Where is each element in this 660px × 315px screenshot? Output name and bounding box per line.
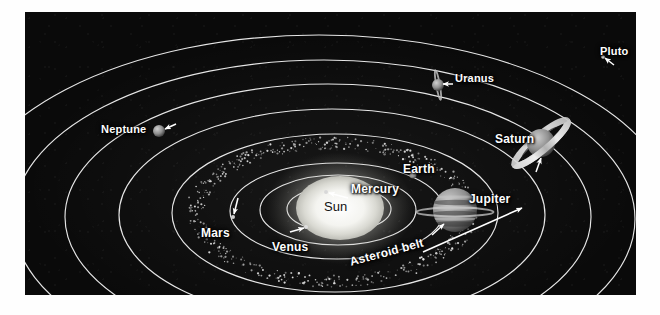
asteroid-dot [194,205,196,207]
asteroid-dot [214,183,216,185]
asteroid-dot [346,286,348,288]
asteroid-dot [282,147,283,148]
asteroid-dot [245,151,247,153]
asteroid-dot [459,232,460,233]
asteroid-dot [311,142,312,143]
asteroid-dot [313,138,314,139]
asteroid-dot [191,207,192,208]
asteroid-dot [339,285,341,287]
asteroid-dot [439,253,440,254]
asteroid-dot [216,174,218,176]
asteroid-dot [335,145,337,147]
asteroid-dot [440,249,441,250]
asteroid-dot [244,154,246,156]
asteroid-dot [449,243,451,245]
asteroid-dot [242,257,243,258]
asteroid-dot [235,164,236,165]
asteroid-dot [404,151,406,153]
asteroid-dot [372,276,373,277]
asteroid-dot [260,275,262,277]
asteroid-dot [403,267,405,269]
asteroid-dot [318,141,319,142]
asteroid-dot [188,197,190,199]
asteroid-dot [197,206,199,208]
asteroid-dot [390,148,392,150]
asteroid-dot [202,207,204,209]
asteroid-dot [365,149,366,150]
venus-label: Venus [272,240,308,254]
asteroid-dot [427,255,429,257]
asteroid-dot [364,274,365,275]
asteroid-dot [282,142,283,143]
asteroid-dot [190,204,192,206]
asteroid-dot [217,247,219,249]
asteroid-dot [411,154,413,156]
asteroid-dot [430,159,432,161]
asteroid-dot [286,280,287,281]
asteroid-dot [204,192,205,193]
asteroid-dot [198,232,199,233]
asteroid-dot [220,255,222,257]
asteroid-dot [260,154,262,156]
asteroid-dot [318,284,320,286]
asteroid-dot [205,182,207,184]
asteroid-dot [290,147,292,149]
asteroid-dot [334,143,336,145]
asteroid-dot [253,157,254,158]
asteroid-dot [329,148,330,149]
asteroid-dot [367,284,369,286]
asteroid-dot [326,141,328,143]
asteroid-dot [463,182,465,184]
asteroid-dot [268,145,269,146]
asteroid-dot [417,158,419,160]
asteroid-dot [322,286,323,287]
asteroid-dot [380,280,382,282]
asteroid-dot [367,278,369,280]
asteroid-dot [333,282,335,284]
asteroid-dot [356,277,358,279]
asteroid-dot [402,264,404,266]
asteroid-dot [195,186,197,188]
asteroid-dot [357,144,359,146]
asteroid-dot [449,178,451,180]
asteroid-dot [189,210,191,212]
asteroid-dot [331,147,332,148]
asteroid-dot [268,274,270,276]
asteroid-dot [257,272,259,274]
asteroid-dot [360,284,362,286]
asteroid-dot [207,242,208,243]
asteroid-dot [204,205,205,206]
asteroid-dot [319,136,321,138]
asteroid-dot [251,152,252,153]
asteroid-dot [240,160,242,162]
asteroid-dot [277,277,279,279]
asteroid-dot [436,169,438,171]
asteroid-dot [224,168,226,170]
asteroid-dot [448,248,450,250]
asteroid-dot [459,183,460,184]
asteroid-dot [244,260,245,261]
asteroid-dot [274,273,275,274]
asteroid-dot [343,148,345,150]
asteroid-dot [383,276,384,277]
asteroid-dot [220,243,221,244]
asteroid-dot [195,214,197,216]
asteroid-dot [435,252,437,254]
asteroid-dot [260,157,262,159]
asteroid-dot [332,145,333,146]
asteroid-dot [387,148,389,150]
asteroid-dot [198,236,200,238]
asteroid-dot [210,243,212,245]
asteroid-dot [258,154,259,155]
asteroid-dot [304,281,306,283]
asteroid-dot [375,148,376,149]
asteroid-dot [458,182,459,183]
asteroid-dot [357,275,359,277]
asteroid-dot [355,285,356,286]
asteroid-dot [445,247,446,248]
asteroid-dot [237,166,239,168]
asteroid-dot [241,158,243,160]
asteroid-dot [347,137,348,138]
asteroid-dot [297,276,298,277]
sun-label: Sun [324,199,347,214]
